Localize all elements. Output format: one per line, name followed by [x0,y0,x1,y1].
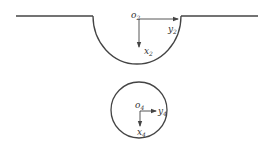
frame-2: o2 y2 x2 [131,10,178,57]
frame-4: o4 y4 x4 [135,100,167,138]
diagram-canvas: o2 y2 x2 o4 y4 x4 [0,0,268,152]
origin-o4-label: o4 [135,100,144,111]
y2-axis-label: y2 [167,24,177,35]
grooved-surface [16,16,258,64]
x4-axis-label: x4 [137,127,146,138]
y4-axis-label: y4 [157,106,167,117]
x2-axis-label: x2 [144,46,153,57]
origin-o2-label: o2 [131,10,140,21]
